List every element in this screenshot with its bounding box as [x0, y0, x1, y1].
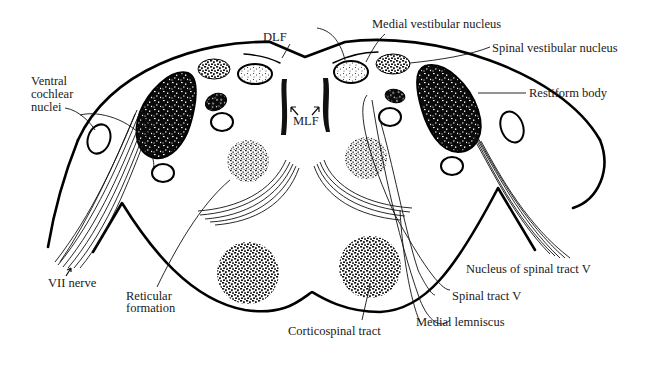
right-small-dark-nucleus [384, 88, 406, 104]
label-corticospinal-tract: Corticospinal tract [288, 324, 381, 338]
vii-nerve-arrow-icon [66, 268, 71, 276]
right-open-nucleus [379, 108, 401, 126]
label-restiform-body: Restiform body [529, 86, 608, 100]
left-ventral-cochlear-nucleus-lateral [84, 121, 115, 157]
right-inferior-open-nucleus [441, 157, 463, 175]
label-ventral-cochlear-nuclei-3: nuclei [31, 100, 62, 114]
label-medial-vestibular-nucleus: Medial vestibular nucleus [372, 17, 501, 31]
right-lateral-open-nucleus [496, 108, 528, 146]
right-medial-vestibular-nucleus [334, 61, 368, 83]
left-corticospinal-tract [217, 242, 279, 304]
left-medial-vestibular-nucleus [198, 59, 230, 79]
left-small-dark-nucleus [203, 90, 230, 114]
left-restiform-body [136, 72, 195, 158]
label-reticular-formation-2: formation [126, 301, 176, 315]
medulla-cross-section-diagram: DLF Medial vestibular nucleus Spinal ves… [0, 0, 660, 367]
label-vii-nerve: VII nerve [48, 276, 97, 290]
label-ventral-cochlear-nuclei-1: Ventral [31, 74, 68, 88]
right-vii-nerve-fibers [469, 130, 570, 258]
label-nucleus-of-spinal-tract-v: Nucleus of spinal tract V [466, 262, 591, 276]
label-ventral-cochlear-nuclei-2: cochlear [31, 87, 74, 101]
left-reticular-formation [227, 140, 269, 182]
label-mlf: MLF [293, 114, 319, 128]
label-medial-lemniscus: Medial lemniscus [416, 315, 505, 329]
label-dlf: DLF [263, 30, 287, 44]
right-restiform-body [417, 65, 481, 152]
left-open-nucleus [211, 113, 233, 131]
right-corticospinal-tract [339, 236, 401, 298]
left-ventral-cochlear-nucleus-medial [152, 164, 174, 182]
right-spinal-vestibular-nucleus [376, 54, 410, 74]
left-spinal-vestibular-region [238, 64, 272, 84]
label-spinal-tract-v: Spinal tract V [452, 289, 521, 303]
right-reticular-formation [345, 137, 387, 179]
label-spinal-vestibular-nucleus: Spinal vestibular nucleus [492, 41, 618, 55]
